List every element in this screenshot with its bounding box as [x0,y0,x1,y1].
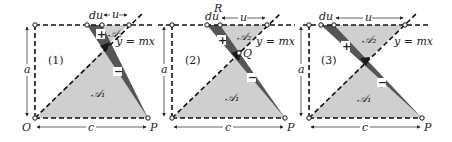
label-c: c [88,121,94,134]
panel-number: (3) [321,54,337,67]
label-c: c [362,121,368,134]
panel-2: a c u du R Q (2) 𝒜₁ 𝒜₂ + − y = mx P [158,2,296,134]
plus-sign: + [97,28,106,41]
label-u: u [240,11,247,24]
label-du: du [89,9,103,22]
panel-1: a c u du (1) 𝒜₁ 𝒜₂ + − y = mx O P [22,8,158,134]
label-u: u [112,8,119,21]
label-a: a [161,63,168,76]
line-equation: y = mx [393,35,434,48]
label-area-a1: 𝒜₁ [357,92,371,105]
minus-sign: − [114,65,123,78]
label-area-a2: 𝒜₂ [237,30,251,43]
diagram-figure: a c u du (1) 𝒜₁ 𝒜₂ + − y = mx O P [0,0,452,142]
label-area-a1: 𝒜₁ [91,87,105,100]
label-area-a1: 𝒜₁ [225,91,239,104]
minus-sign: − [378,76,387,89]
panel-number: (2) [185,54,201,67]
label-a: a [298,63,305,76]
line-equation: y = mx [115,35,156,48]
label-area-a2: 𝒜₂ [362,33,376,46]
label-c: c [225,121,231,134]
label-P: P [423,121,432,134]
panel-number: (1) [48,54,64,67]
minus-sign: − [248,71,257,84]
label-Q: Q [243,47,252,60]
label-a: a [24,63,31,76]
label-P: P [149,121,158,134]
plus-sign: + [342,40,351,53]
panel-3: a c u du (3) 𝒜₁ 𝒜₂ + − y = mx P [297,10,434,134]
label-u: u [365,11,372,24]
label-O: O [22,121,31,134]
label-P: P [286,121,295,134]
area-a1-region [309,62,422,118]
line-equation: y = mx [255,35,296,48]
label-R: R [213,2,222,15]
label-du: du [319,10,333,23]
plus-sign: + [218,34,227,47]
